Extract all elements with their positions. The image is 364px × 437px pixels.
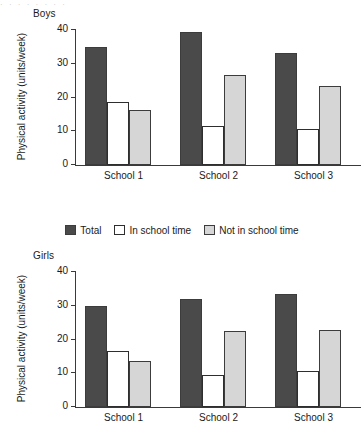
legend-swatch-total-icon (65, 225, 76, 235)
legend-item-in-school-time: In school time (114, 225, 191, 236)
bar-girls-school-2-in-school-time (202, 375, 224, 407)
bar-girls-school-3-not-in-school-time (319, 330, 341, 407)
bar-boys-school-2-total (180, 32, 202, 165)
bar-boys-school-1-not-in-school-time (129, 110, 151, 165)
y-tick-label-20: 20 (57, 333, 68, 345)
bar-girls-school-3-in-school-time (297, 371, 319, 407)
bar-girls-school-2-total (180, 299, 202, 407)
x-axis-label-school-3: School 3 (294, 170, 333, 181)
y-tick-label-0: 0 (62, 158, 68, 170)
chart-title-boys: Boys (33, 8, 56, 19)
bar-girls-school-1-not-in-school-time (129, 361, 151, 407)
plot-area-boys: Physical activity (units/week) 010203040… (75, 30, 361, 166)
bar-boys-school-3-total (275, 53, 297, 165)
legend-label-total: Total (80, 225, 101, 236)
bar-boys-school-1-total (85, 47, 107, 165)
x-axis-label-school-1: School 1 (104, 170, 143, 181)
x-axis-label-school-1: School 1 (104, 412, 143, 423)
legend-swatch-not-in-school-time-icon (204, 225, 215, 235)
bar-boys-school-1-in-school-time (107, 102, 129, 165)
bar-boys-school-3-not-in-school-time (319, 86, 341, 165)
x-axis-labels-boys: School 1School 2School 3 (76, 170, 361, 184)
y-tick-label-10: 10 (57, 366, 68, 378)
bar-boys-school-3-in-school-time (297, 129, 319, 165)
bar-group-container-boys (76, 30, 361, 165)
x-axis-label-school-2: School 2 (199, 412, 238, 423)
chart-title-girls: Girls (33, 250, 54, 261)
chart-panel-boys: Boys Physical activity (units/week) 0102… (0, 8, 364, 213)
y-tick-label-40: 40 (57, 23, 68, 35)
bar-girls-school-1-total (85, 306, 107, 407)
y-axis-label-girls: Physical activity (units/week) (16, 263, 27, 413)
top-cropped-text-strip: · · · · · · · · (0, 0, 364, 7)
legend-label-not-in-school-time: Not in school time (219, 225, 298, 236)
x-axis-label-school-3: School 3 (294, 412, 333, 423)
y-tick-label-30: 30 (57, 57, 68, 69)
legend-swatch-in-school-time-icon (114, 225, 125, 235)
y-tick-label-40: 40 (57, 265, 68, 277)
plot-area-girls: Physical activity (units/week) 010203040… (75, 272, 361, 408)
bar-girls-school-3-total (275, 294, 297, 407)
chart-panel-girls: Girls Physical activity (units/week) 010… (0, 250, 364, 437)
y-tick-label-20: 20 (57, 91, 68, 103)
x-axis-label-school-2: School 2 (199, 170, 238, 181)
bar-girls-school-2-not-in-school-time (224, 331, 246, 407)
legend-label-in-school-time: In school time (129, 225, 191, 236)
bar-group-container-girls (76, 272, 361, 407)
legend-item-total: Total (65, 225, 101, 236)
y-tick-label-0: 0 (62, 400, 68, 412)
y-tick-label-30: 30 (57, 299, 68, 311)
bar-boys-school-2-not-in-school-time (224, 75, 246, 165)
x-axis-labels-girls: School 1School 2School 3 (76, 412, 361, 426)
legend-item-not-in-school-time: Not in school time (204, 225, 298, 236)
chart-legend: Total In school time Not in school time (0, 222, 364, 238)
bar-boys-school-2-in-school-time (202, 126, 224, 165)
bar-girls-school-1-in-school-time (107, 351, 129, 407)
y-axis-label-boys: Physical activity (units/week) (16, 21, 27, 171)
y-tick-label-10: 10 (57, 124, 68, 136)
